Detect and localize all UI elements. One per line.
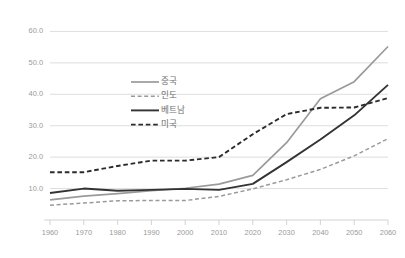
line-chart: 10.020.030.040.050.060.0 196019701980199… — [0, 0, 405, 258]
x-tick-label-2020: 2020 — [245, 228, 261, 237]
legend-label-2: 베트남 — [161, 105, 185, 115]
x-tick-label-2030: 2030 — [278, 228, 294, 237]
x-tick-label-1980: 1980 — [109, 228, 125, 237]
series-line-3 — [50, 98, 388, 172]
x-tick-label-2040: 2040 — [312, 228, 328, 237]
axes — [44, 220, 388, 225]
x-tick-label-2000: 2000 — [177, 228, 193, 237]
y-tick-label-50.0: 50.0 — [29, 58, 43, 67]
y-axis-tick-labels: 10.020.030.040.050.060.0 — [29, 26, 43, 192]
y-tick-label-60.0: 60.0 — [29, 26, 43, 35]
legend-label-1: 인도 — [161, 90, 177, 100]
y-tick-label-20.0: 20.0 — [29, 152, 43, 161]
x-tick-label-1960: 1960 — [42, 228, 58, 237]
gridlines — [50, 31, 388, 188]
y-tick-label-10.0: 10.0 — [29, 184, 43, 193]
chart-canvas: 10.020.030.040.050.060.0 196019701980199… — [0, 0, 405, 258]
y-tick-label-40.0: 40.0 — [29, 89, 43, 98]
x-axis-tick-labels: 1960197019801990200020102020203020402050… — [42, 228, 396, 237]
x-tick-label-2050: 2050 — [346, 228, 362, 237]
legend-label-0: 중국 — [161, 76, 177, 86]
legend-label-3: 미국 — [161, 119, 177, 129]
x-tick-label-1970: 1970 — [76, 228, 92, 237]
x-tick-label-2010: 2010 — [211, 228, 227, 237]
x-tick-label-2060: 2060 — [380, 228, 396, 237]
chart-legend: 중국인도베트남미국 — [131, 76, 185, 129]
y-tick-label-30.0: 30.0 — [29, 121, 43, 130]
series-line-0 — [50, 47, 388, 200]
series-line-2 — [50, 85, 388, 193]
x-tick-label-1990: 1990 — [143, 228, 159, 237]
